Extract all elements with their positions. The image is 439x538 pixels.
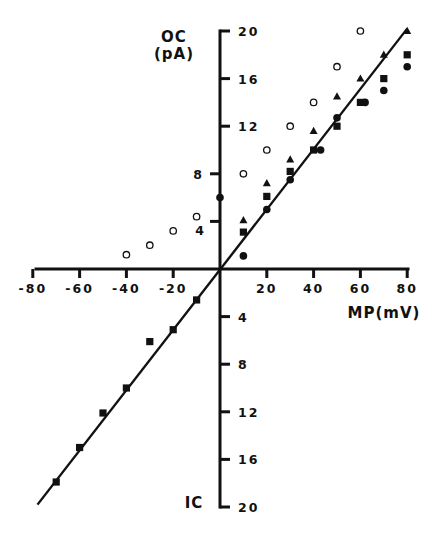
square-point	[193, 296, 200, 303]
y-lower-tick-label: 12	[238, 405, 259, 420]
open-circle-point	[357, 28, 363, 34]
triangle-point	[356, 74, 364, 81]
triangle-point	[286, 155, 294, 162]
x-tick-label: -60	[65, 281, 94, 296]
iv-scatter-chart: -80-60-40-20204060804812162048121620 OC …	[0, 0, 439, 538]
y-upper-tick-label: 20	[238, 24, 259, 39]
open-circle-point	[334, 63, 340, 69]
open-circle-point	[147, 242, 153, 248]
square-point	[170, 326, 177, 333]
triangle-point	[263, 179, 271, 186]
y-lower-tick-label: 4	[238, 310, 249, 325]
square-point	[146, 338, 153, 345]
square-point	[263, 193, 270, 200]
open-circle-point	[123, 252, 129, 258]
regression-line	[37, 29, 407, 505]
x-tick-label: -80	[19, 281, 48, 296]
square-point	[380, 75, 387, 82]
x-tick-label: -20	[159, 281, 188, 296]
x-axis-title: MP(mV)	[348, 304, 421, 322]
y-upper-title-oc: OC	[161, 28, 187, 46]
open-circle-point	[264, 147, 270, 153]
y-lower-tick-label: 20	[238, 500, 259, 515]
filled-circle-point	[286, 176, 294, 184]
square-point	[310, 146, 317, 153]
y-lower-tick-label: 8	[238, 357, 249, 372]
open-circle-point	[240, 171, 246, 177]
x-tick-label: 40	[303, 281, 324, 296]
square-point	[53, 478, 60, 485]
triangle-point	[239, 216, 247, 223]
square-point	[99, 409, 106, 416]
y-upper-tick-label: 8	[193, 167, 204, 182]
y-upper-title-unit: (pA)	[154, 45, 194, 63]
y-upper-tick-label: 12	[238, 119, 259, 134]
triangle-point	[333, 92, 341, 99]
filled-circle-point	[240, 252, 248, 260]
x-tick-label: 20	[256, 281, 277, 296]
open-circle-point	[287, 123, 293, 129]
filled-circle-point	[361, 99, 369, 107]
open-circle-point	[193, 213, 199, 219]
open-circle-point	[170, 228, 176, 234]
triangle-point	[310, 127, 318, 134]
y-lower-title-ic: IC	[185, 494, 204, 512]
filled-circle-point	[317, 146, 325, 154]
chart-canvas: -80-60-40-20204060804812162048121620 OC …	[0, 0, 439, 538]
filled-circle-point	[333, 114, 341, 122]
x-tick-label: 80	[396, 281, 417, 296]
x-tick-label: -40	[112, 281, 141, 296]
filled-circle-point	[403, 63, 411, 71]
y-lower-tick-label: 16	[238, 452, 259, 467]
square-point	[123, 384, 130, 391]
square-point	[240, 229, 247, 236]
square-point	[76, 444, 83, 451]
square-point	[287, 168, 294, 175]
open-circle-point	[310, 99, 316, 105]
square-point	[404, 51, 411, 58]
filled-circle-point	[216, 194, 224, 202]
filled-circle-point	[263, 206, 271, 214]
x-tick-label: 60	[350, 281, 371, 296]
filled-circle-point	[380, 87, 388, 95]
y-upper-tick-label: 16	[238, 72, 259, 87]
y-upper-tick-label: 4	[195, 223, 206, 238]
square-point	[333, 123, 340, 130]
